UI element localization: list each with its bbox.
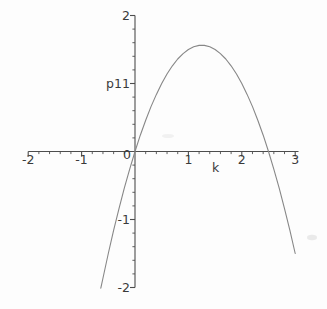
y-axis-label: p1 — [106, 76, 122, 91]
parabola-plot: -2-1123-2-1120kp1 — [0, 0, 327, 309]
x-tick-label: 3 — [291, 152, 299, 167]
x-tick-label: 1 — [184, 152, 192, 167]
x-tick-label: -2 — [22, 152, 34, 167]
x-tick-label: -1 — [75, 152, 87, 167]
y-tick-label: -2 — [118, 280, 130, 295]
scan-smudge — [307, 235, 317, 241]
x-axis-label: k — [212, 160, 220, 175]
origin-tick-label: 0 — [123, 147, 131, 162]
y-tick-label: 2 — [122, 8, 130, 23]
y-tick-label: 1 — [122, 76, 130, 91]
x-tick-label: 2 — [238, 152, 246, 167]
scanned-plot-figure: -2-1123-2-1120kp1 — [0, 0, 327, 309]
y-tick-label: -1 — [118, 212, 130, 227]
scan-smudge — [162, 134, 174, 138]
